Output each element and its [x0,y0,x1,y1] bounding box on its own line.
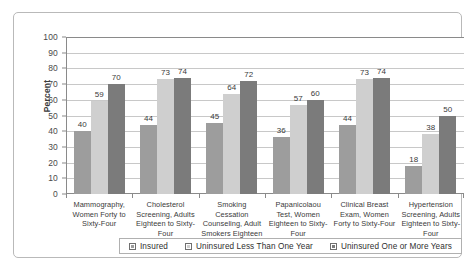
bar-group: 456472 [199,37,265,194]
bar: 45 [206,123,223,194]
chart-figure: 0102030405060708090100 Percent 405970447… [0,0,476,272]
y-tick-label: 0 [53,189,58,199]
bar-value-label: 74 [178,67,187,76]
bar-value-label: 70 [112,73,121,82]
bar-value-label: 38 [426,123,435,132]
bar-value-label: 57 [294,94,303,103]
chart-frame: 0102030405060708090100 Percent 405970447… [13,12,462,258]
bar: 44 [339,125,356,194]
x-tick-mark [265,194,266,198]
bar-groups: 405970447374456472365760447374183850 [66,37,464,194]
x-tick-mark [132,194,133,198]
bar-group: 405970 [66,37,132,194]
bar: 50 [439,116,456,195]
bar: 44 [140,125,157,194]
y-tick-label: 90 [48,48,58,58]
x-tick-mark [398,194,399,198]
x-tick-cell [199,194,265,198]
bar-value-label: 72 [244,70,253,79]
bar-value-label: 36 [277,126,286,135]
bar: 59 [91,101,108,194]
legend-item[interactable]: Uninsured Less Than One Year [185,242,313,251]
bar: 38 [422,134,439,194]
bar-group: 183850 [398,37,464,194]
bar-value-label: 44 [144,114,153,123]
bar-value-label: 64 [227,83,236,92]
bar-value-label: 59 [95,90,104,99]
x-tick-cell [265,194,331,198]
bar-value-label: 60 [311,89,320,98]
bar: 74 [174,78,191,194]
bar-group: 447374 [331,37,397,194]
bar-value-label: 40 [78,120,87,129]
bar: 57 [290,105,307,194]
bar: 70 [108,84,125,194]
legend-label: Insured [140,242,168,251]
y-axis-title: Percent [42,61,52,131]
bar-group: 447374 [132,37,198,194]
x-tick-mark [66,194,67,198]
x-tick-cell [331,194,397,198]
legend-label: Uninsured One or More Years [341,242,452,251]
legend-item[interactable]: Insured [129,242,168,251]
y-axis: 0102030405060708090100 [14,37,66,194]
bar: 64 [223,94,240,194]
x-tick-mark [463,194,464,198]
y-tick-label: 100 [43,32,58,42]
x-tick-cell [398,194,464,198]
bar: 18 [405,166,422,194]
legend-item[interactable]: Uninsured One or More Years [330,242,452,251]
bar-value-label: 73 [360,68,369,77]
legend-label: Uninsured Less Than One Year [196,242,313,251]
bar: 40 [74,131,91,194]
x-tick-cell [132,194,198,198]
legend-swatch-icon [185,243,192,250]
x-tick-mark [199,194,200,198]
bar-value-label: 18 [409,155,418,164]
bar-value-label: 73 [161,68,170,77]
x-tick-mark [331,194,332,198]
bar-group: 365760 [265,37,331,194]
bar: 74 [373,78,390,194]
legend-swatch-icon [330,243,337,250]
bar: 36 [273,137,290,194]
bar: 72 [240,81,257,194]
y-tick-label: 20 [48,158,58,168]
bar: 60 [307,100,324,194]
bar-value-label: 50 [443,105,452,114]
legend-swatch-icon [129,243,136,250]
bar-value-label: 45 [210,112,219,121]
x-axis-ticks [66,194,464,198]
y-tick-label: 10 [48,173,58,183]
bar-value-label: 44 [343,114,352,123]
bar: 73 [356,79,373,194]
chart-legend: InsuredUninsured Less Than One YearUnins… [119,238,462,254]
x-tick-cell [66,194,132,198]
bar-value-label: 74 [377,67,386,76]
y-tick-label: 30 [48,142,58,152]
bar: 73 [157,79,174,194]
